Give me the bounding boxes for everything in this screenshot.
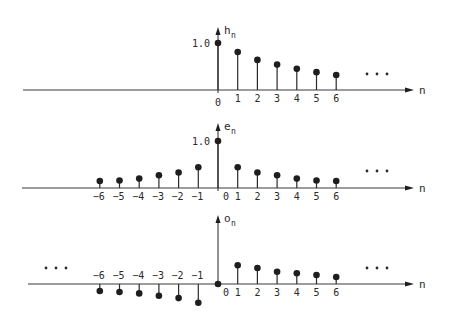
stem-marker xyxy=(175,169,182,176)
stem-marker xyxy=(294,175,301,182)
y-axis-label: h xyxy=(224,24,231,37)
x-tick-label: 1 xyxy=(235,93,241,104)
stem-marker xyxy=(294,66,301,73)
x-tick-label: 4 xyxy=(294,191,300,202)
stem-marker xyxy=(254,169,261,176)
x-tick-label: −2 xyxy=(172,191,184,202)
stem-marker xyxy=(195,300,202,307)
stem-marker xyxy=(274,268,281,275)
x-axis-label: n xyxy=(419,278,426,291)
y-axis-label-subscript: n xyxy=(231,219,236,228)
x-axis-label: n xyxy=(419,182,426,195)
stem-marker xyxy=(234,262,241,269)
ellipsis-dot-right xyxy=(386,170,389,173)
y-axis-label: e xyxy=(224,120,231,133)
stem-marker xyxy=(136,290,143,297)
ellipsis-dot-right xyxy=(376,267,379,270)
x-tick-label: 4 xyxy=(294,287,300,298)
ellipsis-dot-left xyxy=(65,267,68,270)
ellipsis-dot-left xyxy=(45,267,48,270)
x-axis-label: n xyxy=(419,84,426,97)
y-axis-label: o xyxy=(224,212,231,225)
stem-marker xyxy=(333,274,340,281)
x-tick-label: 6 xyxy=(333,191,339,202)
x-tick-label: −3 xyxy=(152,270,164,281)
stem-marker xyxy=(333,72,340,79)
x-tick-label: 3 xyxy=(274,93,280,104)
y-axis-arrow-icon xyxy=(216,215,221,223)
stem-marker xyxy=(313,69,320,76)
x-tick-label: 2 xyxy=(254,287,260,298)
x-tick-label: 3 xyxy=(274,287,280,298)
x-tick-label: −6 xyxy=(93,270,105,281)
x-axis-arrow-icon xyxy=(405,282,414,287)
x-tick-label: −1 xyxy=(191,191,203,202)
stem-marker xyxy=(313,177,320,184)
stem-marker xyxy=(234,49,241,56)
stem-marker xyxy=(116,289,123,296)
x-tick-label: −5 xyxy=(113,191,125,202)
stem-marker xyxy=(175,295,182,302)
x-tick-label: −4 xyxy=(132,270,144,281)
stem-marker xyxy=(215,138,222,145)
x-axis-arrow-icon xyxy=(405,186,414,191)
stem-marker xyxy=(215,281,222,288)
ellipsis-dot-right xyxy=(386,73,389,76)
stem-marker xyxy=(254,57,261,64)
x-tick-label: −5 xyxy=(113,270,125,281)
x-tick-label: 0 xyxy=(215,97,221,108)
stem-plot-figure: nhn1.00123456 nen1.0−6−5−4−3−2−10123456 … xyxy=(0,0,449,324)
stem-marker xyxy=(156,292,163,299)
x-axis-arrow-icon xyxy=(405,88,414,93)
ellipsis-dot-right xyxy=(366,267,369,270)
ellipsis-dot-right xyxy=(386,267,389,270)
stem-marker xyxy=(254,265,261,272)
y-tick-label: 1.0 xyxy=(192,136,210,147)
y-tick-label: 1.0 xyxy=(192,38,210,49)
x-tick-label: 4 xyxy=(294,93,300,104)
x-tick-label: −4 xyxy=(132,191,144,202)
panel-e-n: nen1.0−6−5−4−3−2−10123456 xyxy=(22,120,426,202)
ellipsis-dot-right xyxy=(366,73,369,76)
x-tick-label: 2 xyxy=(254,191,260,202)
x-tick-label: 6 xyxy=(333,93,339,104)
stem-marker xyxy=(97,178,104,185)
x-tick-label: 1 xyxy=(235,191,241,202)
x-tick-label: −1 xyxy=(191,270,203,281)
ellipsis-dot-right xyxy=(376,170,379,173)
x-tick-label: 5 xyxy=(314,191,320,202)
stem-marker xyxy=(294,270,301,277)
stem-marker xyxy=(116,177,123,184)
x-tick-label: 5 xyxy=(314,93,320,104)
stem-marker xyxy=(274,172,281,179)
stem-marker xyxy=(234,164,241,171)
stem-marker xyxy=(136,175,143,182)
stem-marker xyxy=(313,272,320,279)
stem-marker xyxy=(156,172,163,179)
x-tick-label: 1 xyxy=(235,287,241,298)
y-axis-arrow-icon xyxy=(216,123,221,131)
panel-h-n: nhn1.00123456 xyxy=(23,24,426,108)
x-tick-label: 6 xyxy=(333,287,339,298)
x-tick-label: −6 xyxy=(93,191,105,202)
ellipsis-dot-left xyxy=(55,267,58,270)
x-tick-label: 3 xyxy=(274,191,280,202)
x-tick-label: 2 xyxy=(254,93,260,104)
ellipsis-dot-right xyxy=(376,73,379,76)
stem-marker xyxy=(333,178,340,185)
panel-o-n: non−6−5−4−3−2−10123456 xyxy=(28,212,426,306)
stem-marker xyxy=(274,61,281,68)
stem-marker xyxy=(195,164,202,171)
x-tick-label: −3 xyxy=(152,191,164,202)
x-tick-label: −2 xyxy=(172,270,184,281)
x-tick-label: 0 xyxy=(223,191,229,202)
x-tick-label: 0 xyxy=(223,287,229,298)
stem-plots-svg: nhn1.00123456 nen1.0−6−5−4−3−2−10123456 … xyxy=(0,0,449,324)
stem-marker xyxy=(97,288,104,295)
y-axis-arrow-icon xyxy=(216,27,221,35)
y-axis-label-subscript: n xyxy=(231,31,236,40)
x-tick-label: 5 xyxy=(314,287,320,298)
y-axis-label-subscript: n xyxy=(231,127,236,136)
stem-marker xyxy=(215,40,222,47)
ellipsis-dot-right xyxy=(366,170,369,173)
